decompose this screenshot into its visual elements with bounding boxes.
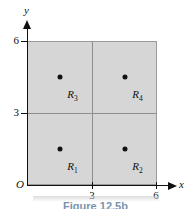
figure-container: y x 6 3 3 6 O R1R2R3R4 Figure 12.5b [0,0,191,209]
y-axis-line [27,28,28,185]
sample-point-dot [57,75,62,80]
y-axis-arrow-icon [23,20,31,29]
region-label-r1: R1 [67,161,77,175]
x-tick-mark-3 [92,182,93,189]
region-label-r4: R4 [132,89,142,103]
x-axis-line [27,185,170,186]
x-tick-mark-6 [156,182,157,189]
y-tick-label-3: 3 [8,107,19,118]
x-axis-label: x [179,179,184,190]
figure-caption: Figure 12.5b [0,201,191,209]
sample-point-dot [122,75,127,80]
sample-point-dot [57,147,62,152]
partition-line-horizontal [27,113,157,114]
sample-point-dot [122,147,127,152]
region-label-r2: R2 [132,161,142,175]
origin-label: O [16,179,24,190]
y-tick-mark-3 [21,113,28,114]
x-axis-arrow-icon [168,182,177,190]
y-axis-label: y [24,5,29,16]
y-tick-mark-6 [21,41,28,42]
y-tick-label-6: 6 [8,35,19,46]
region-label-r3: R3 [67,89,77,103]
